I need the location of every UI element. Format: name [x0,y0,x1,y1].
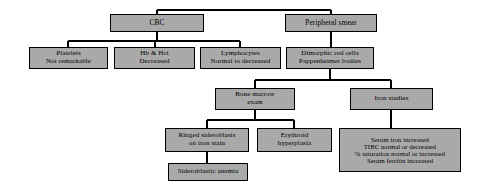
node-sideroblastic-anemia[interactable]: Sideroblastic anemia [168,163,248,181]
node-ringed-sideroblasts-line: on iron stain [189,140,225,148]
node-iron-studies[interactable]: Iron studies [350,88,433,110]
node-iron-studies-results-line: Serum ferritin increased [367,157,433,164]
node-erythroid-hyperplasia[interactable]: Erythroidhyperplasia [257,128,332,152]
node-platelets-line: Not remarkable [46,58,91,66]
node-lymphocytes[interactable]: LymphocytesNormal to decreased [200,47,281,69]
node-sideroblastic-anemia-line: Sideroblastic anemia [178,168,239,176]
node-peripheral-smear-line: Peripheral smear [305,19,356,27]
node-iron-studies-results-line: % saturation normal or increased [355,150,445,157]
node-hb-hct[interactable]: Hb & HctDecreased [114,47,195,69]
node-hb-hct-line: Decreased [139,58,169,66]
node-lymphocytes-line: Normal to decreased [211,58,271,66]
node-cbc-line: CBC [149,19,164,27]
node-iron-studies-results[interactable]: Serum iron increasedTIBC normal or decre… [339,128,461,172]
node-erythroid-hyperplasia-line: hyperplasia [278,140,311,148]
node-iron-studies-results-line: TIBC normal or decreased [364,143,437,150]
node-platelets[interactable]: PlateletsNot remarkable [29,47,108,69]
node-dimorphic-red-cells[interactable]: Dimorphic red cellsPappenheimer bodies [286,47,374,69]
node-ringed-sideroblasts[interactable]: Ringed sideroblastson iron stain [165,128,249,152]
flowchart-canvas: CBCPeripheral smearPlateletsNot remarkab… [0,0,485,192]
node-iron-studies-line: Iron studies [374,95,408,103]
node-cbc[interactable]: CBC [110,14,204,32]
node-peripheral-smear[interactable]: Peripheral smear [285,14,377,32]
node-bone-marrow-exam[interactable]: Bone marrowexam [215,88,295,110]
node-dimorphic-red-cells-line: Pappenheimer bodies [299,58,361,66]
node-iron-studies-results-line: Serum iron increased [371,136,429,143]
node-bone-marrow-exam-line: exam [247,99,263,107]
